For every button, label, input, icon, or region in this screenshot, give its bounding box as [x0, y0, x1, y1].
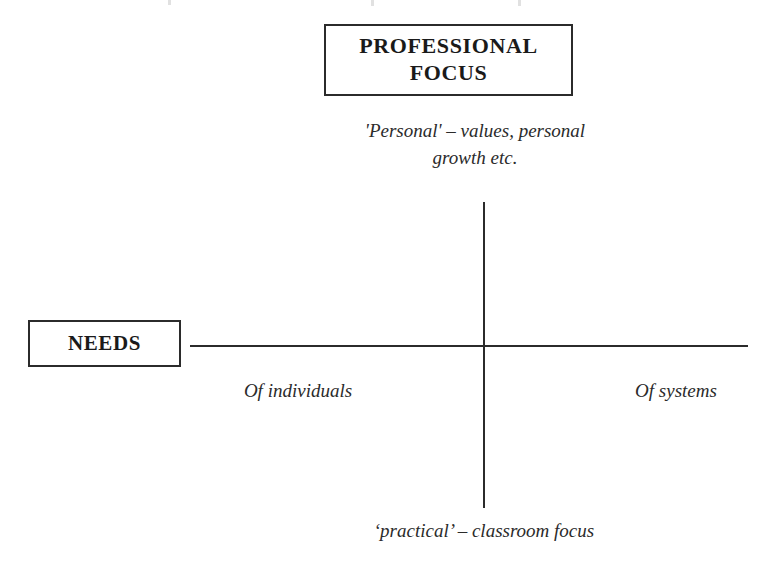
horizontal-axis-line — [190, 345, 748, 347]
vertical-axis-bottom-label: ‘practical’ – classroom focus — [334, 518, 634, 545]
horizontal-axis-left-label: Of individuals — [148, 378, 448, 405]
vertical-axis-top-label: 'Personal' – values, personal growth etc… — [300, 118, 650, 172]
vertical-axis-line — [483, 202, 485, 508]
professional-focus-box: PROFESSIONAL FOCUS — [324, 24, 573, 96]
needs-label: NEEDS — [68, 331, 141, 356]
scan-artifact-mark — [518, 0, 521, 6]
diagram-canvas: PROFESSIONAL FOCUS 'Personal' – values, … — [0, 0, 769, 569]
professional-focus-label: PROFESSIONAL FOCUS — [326, 33, 571, 87]
horizontal-axis-right-label: Of systems — [601, 378, 751, 405]
scan-artifact-mark — [168, 0, 171, 5]
needs-box: NEEDS — [28, 320, 181, 367]
scan-artifact-mark — [371, 0, 374, 6]
